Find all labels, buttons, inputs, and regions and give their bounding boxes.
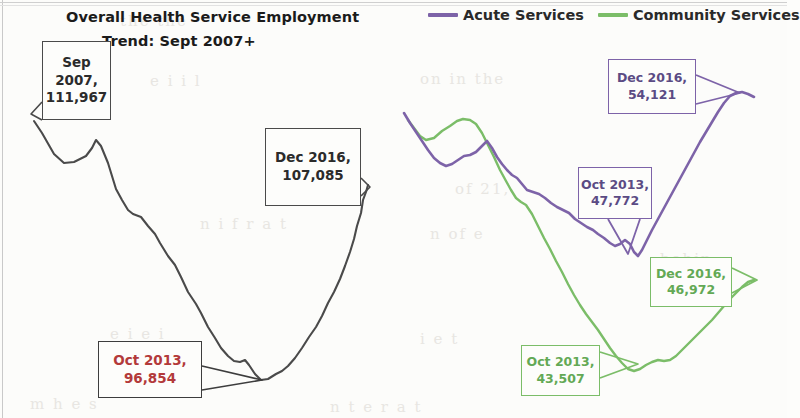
acute-trough-callout-pointer bbox=[608, 219, 640, 254]
callout-line-1: Dec 2016, bbox=[656, 266, 726, 283]
callout-line-3: 111,967 bbox=[46, 89, 108, 107]
callout-oct-2013-overall: Oct 2013, 96,854 bbox=[98, 341, 202, 398]
legend-item-community-services[interactable]: Community Services bbox=[598, 7, 800, 23]
callout-dec-2016-acute: Dec 2016, 54,121 bbox=[608, 59, 696, 114]
callout-line-1: Dec 2016, bbox=[617, 70, 687, 87]
callout-line-2: 2007, bbox=[55, 72, 98, 90]
page-title: Overall Health Service Employment bbox=[66, 9, 359, 25]
legend-item-acute-services[interactable]: Acute Services bbox=[428, 7, 584, 23]
callout-line-2: 107,085 bbox=[282, 167, 344, 185]
callout-sep-2007-start: Sep 2007, 111,967 bbox=[42, 41, 111, 120]
legend-label-acute-services: Acute Services bbox=[463, 7, 584, 23]
line-swatch-icon bbox=[598, 13, 628, 17]
callout-line-1: Oct 2013, bbox=[527, 354, 595, 371]
page-subtitle: Trend: Sept 2007+ bbox=[102, 33, 256, 49]
callout-line-2: 96,854 bbox=[124, 370, 176, 388]
callout-dec-2016-overall: Dec 2016, 107,085 bbox=[265, 128, 361, 206]
callout-oct-2013-community: Oct 2013, 43,507 bbox=[521, 345, 600, 396]
callout-oct-2013-acute: Oct 2013, 47,772 bbox=[578, 167, 652, 219]
callout-dec-2016-community: Dec 2016, 46,972 bbox=[650, 257, 732, 307]
callout-line-2: 46,972 bbox=[667, 282, 715, 299]
callout-line-1: Sep bbox=[62, 54, 91, 72]
community-trough-callout-pointer bbox=[600, 352, 638, 378]
callout-line-2: 54,121 bbox=[628, 87, 676, 104]
callout-line-2: 43,507 bbox=[536, 371, 584, 388]
line-swatch-icon bbox=[428, 13, 458, 17]
community-services-line bbox=[408, 119, 754, 371]
callout-line-1: Dec 2016, bbox=[275, 149, 351, 167]
chart-legend: Acute Services Community Services bbox=[428, 7, 800, 23]
callout-line-1: Oct 2013, bbox=[113, 352, 186, 370]
acute-end-callout-pointer bbox=[696, 75, 740, 104]
legend-label-community-services: Community Services bbox=[633, 7, 800, 23]
callout-line-1: Oct 2013, bbox=[581, 177, 649, 194]
callout-line-2: 47,772 bbox=[591, 193, 639, 210]
sep2007-callout-pointer bbox=[31, 102, 42, 120]
